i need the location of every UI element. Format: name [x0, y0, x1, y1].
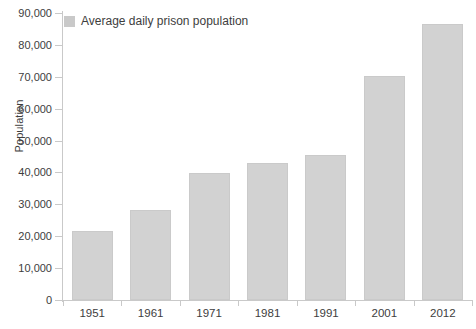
bar[interactable]: [305, 155, 346, 300]
y-axis-tick: [55, 141, 62, 142]
x-axis-tick-label: 2001: [372, 307, 398, 319]
bar[interactable]: [189, 173, 230, 300]
x-axis-tick-label: 1991: [313, 307, 339, 319]
x-axis-tick-label: 1971: [196, 307, 222, 319]
x-axis-tick-label: 1961: [138, 307, 164, 319]
y-axis-tick-label: 70,000: [0, 71, 52, 83]
legend-label: Average daily prison population: [81, 14, 248, 28]
y-axis-tick: [55, 109, 62, 110]
bar[interactable]: [130, 210, 171, 300]
y-axis-tick-label: 90,000: [0, 7, 52, 19]
x-axis-tick-label: 2012: [430, 307, 456, 319]
y-axis-tick-label: 20,000: [0, 230, 52, 242]
x-axis-tick: [355, 300, 356, 306]
y-axis-tick: [55, 300, 62, 301]
y-axis-tick: [55, 172, 62, 173]
y-axis-tick-label: 60,000: [0, 103, 52, 115]
x-axis-tick: [63, 300, 64, 306]
bar[interactable]: [247, 163, 288, 300]
y-axis-tick: [55, 236, 62, 237]
x-axis-tick-label: 1951: [79, 307, 105, 319]
y-axis-tick-label: 30,000: [0, 198, 52, 210]
y-axis-tick: [55, 13, 62, 14]
y-axis-tick-label: 10,000: [0, 262, 52, 274]
y-axis-title: Population: [13, 71, 25, 181]
x-axis-tick: [180, 300, 181, 306]
y-axis-tick: [55, 204, 62, 205]
x-axis-line: [62, 300, 472, 301]
bar[interactable]: [72, 231, 113, 300]
x-axis-tick: [297, 300, 298, 306]
bar[interactable]: [364, 76, 405, 300]
x-axis-tick: [238, 300, 239, 306]
y-axis-tick: [55, 77, 62, 78]
x-axis-tick: [472, 300, 473, 306]
bar-chart: Population 010,00020,00030,00040,00050,0…: [0, 0, 476, 329]
y-axis-line: [62, 11, 63, 302]
x-axis-tick: [414, 300, 415, 306]
x-axis-tick: [121, 300, 122, 306]
y-axis-tick-label: 40,000: [0, 166, 52, 178]
y-axis-tick: [55, 45, 62, 46]
y-axis-tick: [55, 268, 62, 269]
bar[interactable]: [422, 24, 463, 300]
y-axis-tick-label: 50,000: [0, 135, 52, 147]
legend-swatch-icon: [64, 16, 75, 27]
y-axis-tick-label: 80,000: [0, 39, 52, 51]
y-axis-tick-label: 0: [0, 294, 52, 306]
x-axis-tick-label: 1981: [255, 307, 281, 319]
chart-legend: Average daily prison population: [64, 14, 248, 28]
